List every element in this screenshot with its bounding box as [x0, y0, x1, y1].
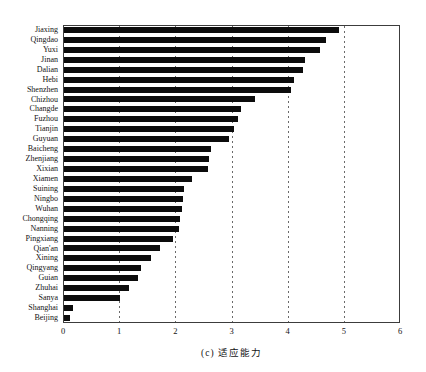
- bar: [64, 295, 120, 301]
- bar-row: Guian: [0, 273, 426, 283]
- bar: [64, 156, 209, 162]
- bar: [64, 186, 184, 192]
- bar-row: Jinan: [0, 55, 426, 65]
- bar: [64, 116, 238, 122]
- bar: [64, 136, 229, 142]
- category-label: Xixian: [0, 164, 58, 174]
- bar-row: Beijing: [0, 313, 426, 323]
- category-label: Shenzhen: [0, 85, 58, 95]
- bar: [64, 146, 211, 152]
- category-label: Baicheng: [0, 144, 58, 154]
- bar-row: Qingyang: [0, 263, 426, 273]
- bar: [64, 206, 182, 212]
- bar-row: Fuzhou: [0, 114, 426, 124]
- bar: [64, 67, 303, 73]
- x-tick-label: 1: [117, 326, 121, 336]
- bar-row: Xixian: [0, 164, 426, 174]
- bar-row: Shanghai: [0, 303, 426, 313]
- bar: [64, 106, 241, 112]
- category-label: Beijing: [0, 313, 58, 323]
- category-label: Yuxi: [0, 45, 58, 55]
- bar-row: Guyuan: [0, 134, 426, 144]
- bar: [64, 275, 138, 281]
- bar-row: Qian'an: [0, 244, 426, 254]
- category-label: Suining: [0, 184, 58, 194]
- category-label: Pingxiang: [0, 234, 58, 244]
- category-label: Xiamen: [0, 174, 58, 184]
- x-tick-label: 4: [286, 326, 290, 336]
- bar: [64, 255, 151, 261]
- x-tick-label: 2: [173, 326, 177, 336]
- bar: [64, 315, 70, 321]
- bar-row: Xining: [0, 253, 426, 263]
- bar: [64, 176, 192, 182]
- bar-row: Dalian: [0, 65, 426, 75]
- category-label: Sanya: [0, 293, 58, 303]
- category-label: Fuzhou: [0, 114, 58, 124]
- bar-row: Xiamen: [0, 174, 426, 184]
- bar-row: Shenzhen: [0, 85, 426, 95]
- bar: [64, 47, 320, 53]
- bar-row: Changde: [0, 104, 426, 114]
- category-label: Ningbo: [0, 194, 58, 204]
- bar-row: Hebi: [0, 75, 426, 85]
- bar: [64, 245, 160, 251]
- bar-row: Suining: [0, 184, 426, 194]
- x-tick-label: 3: [229, 326, 233, 336]
- bar-row: Zhenjiang: [0, 154, 426, 164]
- bar: [64, 216, 180, 222]
- x-tick-label: 0: [61, 326, 65, 336]
- bar-row: Tianjin: [0, 124, 426, 134]
- bar-chart-figure: JiaxingQingdaoYuxiJinanDalianHebiShenzhe…: [0, 0, 426, 372]
- bar-row: Baicheng: [0, 144, 426, 154]
- bar: [64, 285, 129, 291]
- category-label: Guian: [0, 273, 58, 283]
- category-label: Nanning: [0, 224, 58, 234]
- bar: [64, 37, 326, 43]
- category-label: Qian'an: [0, 244, 58, 254]
- category-label: Guyuan: [0, 134, 58, 144]
- bar-row: Sanya: [0, 293, 426, 303]
- bar-row: Zhuhai: [0, 283, 426, 293]
- category-label: Qingyang: [0, 263, 58, 273]
- bar: [64, 77, 294, 83]
- bar: [64, 96, 255, 102]
- bar: [64, 236, 173, 242]
- x-tick-label: 6: [398, 326, 402, 336]
- category-label: Jiaxing: [0, 25, 58, 35]
- bar: [64, 196, 183, 202]
- bar: [64, 166, 208, 172]
- category-label: Xining: [0, 253, 58, 263]
- category-label: Hebi: [0, 75, 58, 85]
- category-label: Chongqing: [0, 214, 58, 224]
- bar: [64, 27, 339, 33]
- bar-row: Pingxiang: [0, 234, 426, 244]
- bar: [64, 126, 234, 132]
- bar: [64, 87, 291, 93]
- category-label: Dalian: [0, 65, 58, 75]
- category-label: Zhuhai: [0, 283, 58, 293]
- category-label: Chizhou: [0, 95, 58, 105]
- bar-row: Qingdao: [0, 35, 426, 45]
- x-tick-label: 5: [342, 326, 346, 336]
- bar: [64, 57, 305, 63]
- bar-row: Ningbo: [0, 194, 426, 204]
- category-label: Shanghai: [0, 303, 58, 313]
- category-label: Wuhan: [0, 204, 58, 214]
- bar-row: Wuhan: [0, 204, 426, 214]
- bar-row: Jiaxing: [0, 25, 426, 35]
- bar-row: Chizhou: [0, 95, 426, 105]
- category-label: Qingdao: [0, 35, 58, 45]
- bar-row: Yuxi: [0, 45, 426, 55]
- chart-caption: (c) 适应能力: [63, 345, 400, 359]
- bar-row: Nanning: [0, 224, 426, 234]
- category-label: Changde: [0, 104, 58, 114]
- bar: [64, 305, 73, 311]
- bar-row: Chongqing: [0, 214, 426, 224]
- bar: [64, 265, 141, 271]
- category-label: Zhenjiang: [0, 154, 58, 164]
- category-label: Tianjin: [0, 124, 58, 134]
- category-label: Jinan: [0, 55, 58, 65]
- bar: [64, 226, 179, 232]
